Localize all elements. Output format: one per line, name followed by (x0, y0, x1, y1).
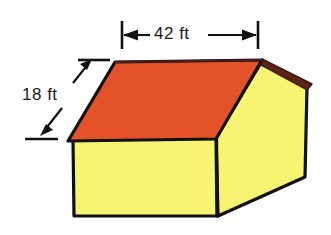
dim-42-arrowhead-left (123, 30, 138, 41)
dimension-label-slant: 18 ft (22, 86, 58, 103)
dim-18-arrowhead-lower (40, 124, 53, 136)
house-figure: 42 ft 18 ft (0, 0, 331, 235)
front-wall (73, 138, 217, 216)
front-corner-edge (217, 138, 218, 216)
dim-42-arrowhead-right (242, 30, 257, 41)
dimension-label-width: 42 ft (150, 25, 194, 42)
